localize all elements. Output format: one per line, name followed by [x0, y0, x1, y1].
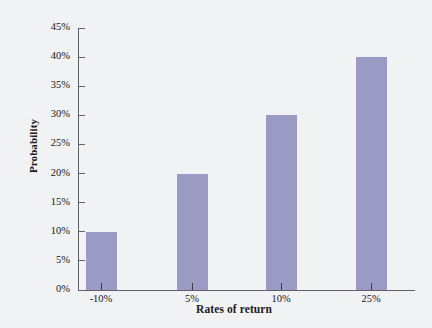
y-tick-label: 20%: [32, 167, 70, 178]
y-tick-label: 5%: [32, 254, 70, 265]
y-tick-mark: [78, 115, 85, 116]
y-tick-label: 10%: [32, 225, 70, 236]
y-tick-mark: [78, 290, 85, 291]
y-tick-mark: [78, 260, 85, 261]
bar-chart: Probability Rates of return 0%5%10%15%20…: [0, 0, 432, 328]
x-tick-label: 25%: [336, 293, 406, 304]
x-tick-mark: [371, 283, 372, 290]
bar: [266, 115, 297, 290]
y-tick-mark: [78, 231, 85, 232]
y-tick-mark: [78, 173, 85, 174]
bar: [86, 232, 117, 290]
y-tick-label: 45%: [32, 21, 70, 32]
x-axis-title: Rates of return: [196, 303, 272, 315]
x-tick-mark: [101, 283, 102, 290]
y-tick-mark: [78, 202, 85, 203]
bar: [356, 57, 387, 290]
y-tick-label: 30%: [32, 108, 70, 119]
y-tick-label: 25%: [32, 137, 70, 148]
x-tick-mark: [281, 283, 282, 290]
y-tick-label: 15%: [32, 196, 70, 207]
y-tick-mark: [78, 57, 85, 58]
y-tick-label: 0%: [32, 283, 70, 294]
y-tick-mark: [78, 86, 85, 87]
x-tick-label: 10%: [246, 293, 316, 304]
y-axis-line: [78, 28, 79, 291]
y-tick-label: 35%: [32, 79, 70, 90]
bar: [177, 174, 208, 290]
x-tick-mark: [192, 283, 193, 290]
x-axis-line: [78, 290, 415, 291]
y-tick-label: 40%: [32, 50, 70, 61]
y-tick-mark: [78, 28, 85, 29]
x-tick-label: 5%: [157, 293, 227, 304]
x-tick-label: -10%: [66, 293, 136, 304]
y-tick-mark: [78, 144, 85, 145]
